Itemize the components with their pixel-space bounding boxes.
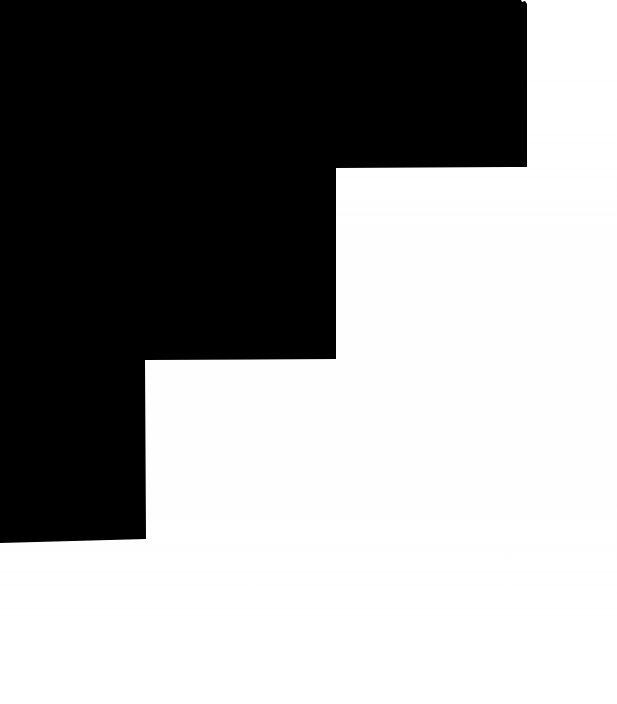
staircase-silhouette-svg xyxy=(0,0,617,704)
image-canvas: Black staircase silhouette A solid black… xyxy=(0,0,617,704)
